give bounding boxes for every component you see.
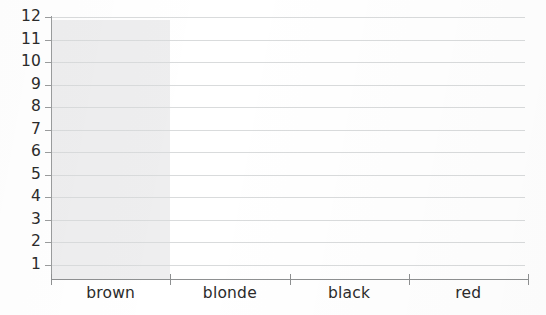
- y-axis-tick-label-wrap: 12: [0, 9, 41, 25]
- y-axis-tick: [45, 242, 52, 243]
- y-axis-tick: [45, 130, 52, 131]
- highlight-band-brown: [51, 20, 170, 279]
- y-axis-tick-label: 4: [11, 189, 41, 205]
- gridline: [51, 242, 525, 243]
- y-axis-tick-label: 2: [11, 234, 41, 250]
- y-axis-line: [51, 16, 52, 280]
- y-axis-tick-label: 8: [11, 99, 41, 115]
- y-axis-tick-label: 5: [11, 167, 41, 183]
- y-axis-tick-label-wrap: 2: [0, 234, 41, 250]
- y-axis-tick-label-wrap: 5: [0, 167, 41, 183]
- x-axis-tick: [290, 274, 291, 285]
- y-axis-tick: [45, 17, 52, 18]
- y-axis-tick: [45, 107, 52, 108]
- y-axis-tick-label-wrap: 6: [0, 144, 41, 160]
- gridline: [51, 40, 525, 41]
- gridline: [51, 107, 525, 108]
- y-axis-tick-label: 6: [11, 144, 41, 160]
- y-axis-tick: [45, 175, 52, 176]
- y-axis-tick: [45, 197, 52, 198]
- gridline: [51, 265, 525, 266]
- y-axis-tick: [45, 40, 52, 41]
- y-axis-tick-label: 9: [11, 77, 41, 93]
- x-axis-category-label-blonde: blonde: [170, 285, 289, 302]
- gridline: [51, 17, 525, 18]
- y-axis-tick-label-wrap: 9: [0, 77, 41, 93]
- gridline: [51, 85, 525, 86]
- x-axis-category-label-brown: brown: [51, 285, 170, 302]
- gridline: [51, 152, 525, 153]
- y-axis-tick: [45, 152, 52, 153]
- x-axis-category-label-red: red: [409, 285, 528, 302]
- y-axis-tick: [45, 85, 52, 86]
- y-axis-tick-label: 11: [11, 32, 41, 48]
- gridline: [51, 220, 525, 221]
- gridline: [51, 130, 525, 131]
- y-axis-tick-label-wrap: 10: [0, 54, 41, 70]
- bar-chart-figure: 121110987654321 brownblondeblackred: [0, 0, 546, 315]
- y-axis-tick-label-wrap: 8: [0, 99, 41, 115]
- x-axis-tick: [51, 274, 52, 285]
- gridline: [51, 175, 525, 176]
- y-axis-tick-label: 3: [11, 212, 41, 228]
- y-axis-tick-label: 12: [11, 9, 41, 25]
- plot-area: [51, 17, 528, 279]
- y-axis-tick-label-wrap: 1: [0, 257, 41, 273]
- y-axis-tick-label: 7: [11, 122, 41, 138]
- x-axis-tick: [528, 274, 529, 285]
- gridline: [51, 62, 525, 63]
- y-axis-tick-label-wrap: 11: [0, 32, 41, 48]
- x-axis-tick: [409, 274, 410, 285]
- y-axis-tick: [45, 62, 52, 63]
- y-axis-tick-label-wrap: 7: [0, 122, 41, 138]
- y-axis-tick-label-wrap: 3: [0, 212, 41, 228]
- y-axis-tick-label-wrap: 4: [0, 189, 41, 205]
- x-axis-tick: [170, 274, 171, 285]
- x-axis-category-label-black: black: [290, 285, 409, 302]
- gridline: [51, 197, 525, 198]
- y-axis-tick-label: 10: [11, 54, 41, 70]
- y-axis-tick-label: 1: [11, 257, 41, 273]
- y-axis-tick: [45, 220, 52, 221]
- y-axis-tick: [45, 265, 52, 266]
